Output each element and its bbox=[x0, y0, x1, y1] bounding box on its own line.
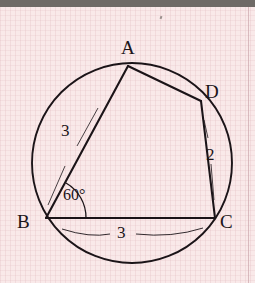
circumcircle bbox=[32, 63, 232, 263]
segment-ba bbox=[46, 66, 128, 218]
length-label-dc: 2 bbox=[206, 146, 215, 163]
vertex-label-a: A bbox=[121, 38, 135, 57]
vertex-label-d: D bbox=[205, 82, 219, 101]
length-label-bc: 3 bbox=[117, 224, 126, 241]
leader-line-bc-left bbox=[62, 229, 110, 235]
leader-line-bc-right bbox=[136, 228, 203, 235]
vertex-label-b: B bbox=[17, 212, 30, 231]
segment-ad bbox=[128, 66, 201, 101]
angle-label-b: 60° bbox=[63, 187, 85, 203]
geometry-figure-page: A B C D 3 2 3 60° bbox=[0, 0, 255, 283]
vertex-label-c: C bbox=[220, 212, 233, 231]
length-label-ab: 3 bbox=[61, 122, 70, 139]
